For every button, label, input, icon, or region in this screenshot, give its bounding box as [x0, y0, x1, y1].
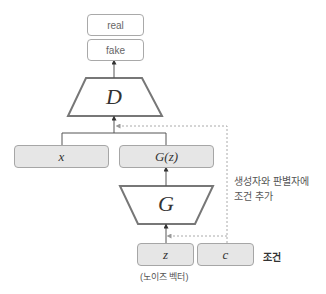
fake-output-box: fake [87, 39, 144, 61]
noise-vector-caption: (노이즈 벡터) [140, 270, 189, 283]
condition-c-box: c [197, 243, 254, 266]
discriminator-label: D [94, 84, 134, 110]
c-label: c [223, 247, 229, 263]
real-label: real [107, 20, 124, 31]
fake-label: fake [106, 45, 125, 56]
x-label: x [59, 149, 65, 165]
condition-caption: 조건 [263, 249, 281, 264]
condition-note: 생성자와 판별자에 조건 추가 [234, 174, 309, 204]
generated-gz-box: G(z) [119, 145, 214, 168]
condition-note-line2: 조건 추가 [234, 189, 309, 204]
condition-note-line1: 생성자와 판별자에 [234, 174, 309, 189]
real-data-x-box: x [14, 145, 109, 168]
z-label: z [163, 247, 168, 263]
gz-label: G(z) [155, 149, 178, 165]
generator-label: G [146, 191, 186, 217]
real-output-box: real [87, 14, 144, 36]
noise-z-box: z [137, 243, 194, 266]
